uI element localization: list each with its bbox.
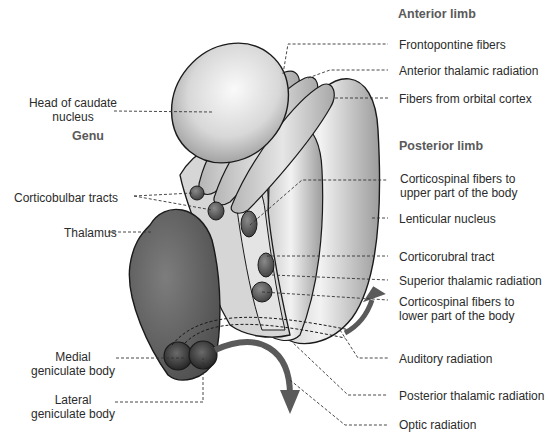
label-posterior-thalamic-radiation: Posterior thalamic radiation — [399, 389, 544, 403]
label-superior-thalamic-radiation: Superior thalamic radiation — [399, 274, 542, 288]
medial-geniculate-shape — [164, 342, 192, 370]
label-auditory-radiation: Auditory radiation — [399, 352, 492, 366]
heading-anterior-limb: Anterior limb — [398, 7, 476, 21]
label-corticobulbar-tracts: Corticobulbar tracts — [14, 191, 118, 205]
heading-posterior-limb: Posterior limb — [399, 139, 483, 153]
label-fibers-orbital-cortex: Fibers from orbital cortex — [399, 92, 532, 106]
label-anterior-thalamic-radiation: Anterior thalamic radiation — [399, 64, 538, 78]
label-head-of-caudate: Head of caudate nucleus — [28, 96, 118, 124]
label-corticospinal-lower: Corticospinal fibers to lower part of th… — [399, 295, 514, 323]
label-lateral-geniculate-body: Lateral geniculate body — [30, 393, 116, 421]
label-thalamus: Thalamus — [64, 226, 117, 240]
label-lenticular-nucleus: Lenticular nucleus — [399, 212, 496, 226]
label-corticospinal-upper: Corticospinal fibers to upper part of th… — [400, 172, 517, 200]
label-optic-radiation: Optic radiation — [399, 418, 476, 432]
heading-genu: Genu — [72, 129, 104, 143]
label-corticorubral-tract: Corticorubral tract — [399, 250, 494, 264]
label-medial-geniculate-body: Medial geniculate body — [30, 350, 116, 378]
label-frontopontine-fibers: Frontopontine fibers — [399, 38, 506, 52]
